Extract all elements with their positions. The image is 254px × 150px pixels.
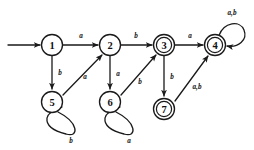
transition-label-1-5: b (58, 69, 62, 77)
state-label-2: 2 (107, 40, 112, 51)
state-label-3: 3 (161, 40, 166, 51)
transition-label-7-4: a,b (193, 83, 202, 91)
self-loop-label-5: b (69, 137, 73, 145)
automaton-diagram-canvas: a b a b a b a b (0, 0, 254, 150)
transition-label-3-4: a (188, 32, 192, 40)
transition-1-to-5: b (52, 56, 62, 90)
state-label-7: 7 (161, 104, 166, 115)
state-node-4[interactable]: 4 (205, 35, 226, 56)
transition-1-to-2: a (63, 32, 99, 45)
state-node-6[interactable]: 6 (100, 92, 121, 113)
state-node-5[interactable]: 5 (42, 92, 63, 113)
transition-3-to-4: a (175, 32, 204, 45)
transition-label-2-3: b (134, 32, 138, 40)
self-loop-label-6: a (127, 137, 131, 145)
state-node-7[interactable]: 7 (154, 99, 175, 120)
transition-6-to-3: b (121, 55, 156, 95)
state-label-1: 1 (49, 40, 54, 51)
state-node-1[interactable]: 1 (42, 35, 63, 56)
state-node-2[interactable]: 2 (100, 35, 121, 56)
state-label-6: 6 (107, 97, 112, 108)
transition-2-to-3: b (121, 32, 153, 45)
transition-label-1-2: a (79, 32, 83, 40)
self-loop-label-4: a,b (228, 9, 237, 17)
state-label-4: 4 (212, 40, 218, 51)
transition-2-to-6: a (110, 56, 120, 90)
transition-label-6-3: b (138, 78, 142, 86)
transition-3-to-7: b (164, 56, 174, 97)
transition-label-2-6: a (116, 70, 120, 78)
transition-7-to-4: a,b (175, 56, 208, 101)
transition-label-5-2: a (83, 73, 87, 81)
state-label-5: 5 (49, 97, 54, 108)
state-node-3[interactable]: 3 (154, 35, 175, 56)
state-diagram-svg: a b a b a b a b (0, 0, 254, 150)
transition-label-3-7: b (170, 73, 174, 81)
transition-5-to-2: a (63, 55, 102, 95)
